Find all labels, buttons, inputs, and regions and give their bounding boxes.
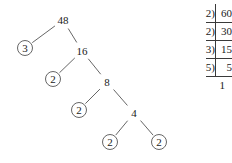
- composite-node-label: 16: [77, 45, 89, 57]
- composite-node-label: 48: [58, 14, 70, 26]
- tree-edge: [141, 121, 154, 136]
- dividend: 15: [215, 40, 232, 59]
- factorization-diagram: 48316282422 2)602)303)155)5 1: [0, 0, 232, 163]
- tree-edge: [116, 121, 128, 135]
- composite-node-label: 8: [104, 76, 110, 88]
- prime-factor-node-label: 2: [107, 136, 113, 148]
- tree-edge: [88, 59, 100, 74]
- composite-node-label: 4: [131, 107, 137, 119]
- divisor: 2): [206, 22, 215, 41]
- final-quotient-row: 1: [178, 76, 232, 94]
- divisor: 5): [206, 58, 215, 77]
- divisor: 3): [206, 40, 215, 59]
- division-ladder-row: 2)30: [178, 22, 232, 40]
- division-ladder-row: 5)5: [178, 58, 232, 76]
- division-ladder: 2)602)303)155)5 1: [178, 4, 232, 94]
- division-ladder-row: 3)15: [178, 40, 232, 58]
- dividend: 30: [215, 22, 232, 41]
- prime-factor-node-label: 3: [22, 42, 28, 54]
- divisor: 2): [206, 4, 215, 23]
- dividend: 5: [215, 58, 232, 77]
- tree-edge: [32, 26, 55, 43]
- final-quotient: 1: [220, 76, 226, 94]
- prime-factor-node-label: 2: [76, 104, 82, 116]
- tree-nodes: 48316282422: [18, 14, 167, 150]
- prime-factor-node-label: 2: [156, 136, 162, 148]
- prime-factor-node-label: 2: [50, 73, 56, 85]
- tree-edge: [68, 29, 77, 43]
- tree-edge: [85, 89, 100, 104]
- dividend: 60: [215, 4, 232, 23]
- tree-edge: [114, 90, 128, 106]
- tree-edge: [59, 58, 74, 73]
- division-ladder-rows: 2)602)303)155)5: [178, 4, 232, 76]
- division-ladder-row: 2)60: [178, 4, 232, 22]
